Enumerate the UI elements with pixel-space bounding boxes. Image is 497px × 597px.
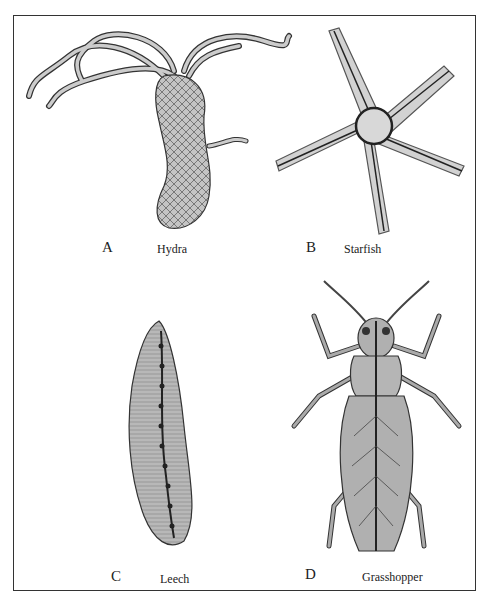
leech-illustration: [14, 276, 274, 556]
panel-caption: Grasshopper: [362, 570, 423, 585]
panel-grasshopper: D Grasshopper: [274, 276, 477, 592]
panel-caption: Starfish: [344, 242, 381, 257]
starfish-illustration: [274, 16, 477, 236]
panel-letter: C: [111, 568, 121, 585]
panel-leech: C Leech: [14, 276, 274, 592]
panel-starfish: B Starfish: [274, 16, 477, 276]
figure-frame: A Hydra: [13, 15, 476, 591]
panel-letter: B: [306, 239, 316, 256]
hydra-illustration: [14, 16, 274, 236]
panel-hydra: A Hydra: [14, 16, 274, 276]
panel-caption: Hydra: [157, 242, 187, 257]
panel-letter: D: [305, 566, 316, 583]
grasshopper-illustration: [274, 276, 477, 566]
panel-caption: Leech: [160, 572, 189, 587]
panel-letter: A: [102, 239, 113, 256]
